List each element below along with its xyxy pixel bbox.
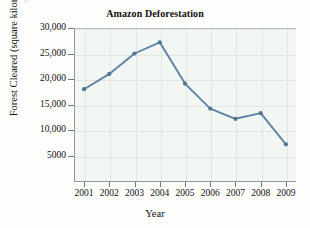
data-point-marker: 2003: 25000	[132, 51, 136, 55]
chart-page: p Amazon Deforestation Forest Cleared (s…	[0, 0, 310, 228]
series-polyline	[84, 42, 286, 144]
data-point-marker: 2001: 18000	[82, 87, 86, 91]
x-axis-label: Year	[0, 208, 310, 219]
data-point-marker: 2002: 21000	[107, 72, 111, 76]
data-point-marker: 2008: 13300	[259, 111, 263, 115]
data-series-line: 2001: 180002002: 210002003: 250002004: 2…	[0, 0, 310, 228]
data-point-marker: 2005: 19100	[183, 81, 187, 85]
data-point-marker: 2004: 27200	[158, 40, 162, 44]
data-point-marker: 2006: 14200	[208, 106, 212, 110]
data-point-marker: 2009: 7200	[284, 142, 288, 146]
data-point-marker: 2007: 12200	[233, 117, 237, 121]
